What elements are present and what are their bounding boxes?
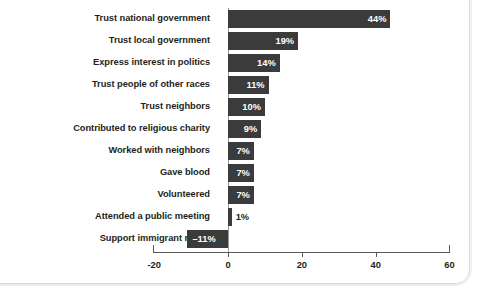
bar-value-label: 10% xyxy=(228,98,265,116)
bar-value-label: 7% xyxy=(228,142,254,160)
x-axis-right-cap xyxy=(449,245,450,252)
bar-value-label: 7% xyxy=(228,164,254,182)
bar-value-label: 9% xyxy=(228,120,261,138)
x-axis-tick-label: 0 xyxy=(208,260,248,270)
x-axis-tick-label: -20 xyxy=(134,260,174,270)
x-axis-left-cap xyxy=(153,245,154,252)
bar-value-label: 14% xyxy=(228,54,280,72)
bar-value-label: 11% xyxy=(228,76,269,94)
bar-value-label: –11% xyxy=(187,230,228,248)
bar xyxy=(228,208,232,226)
x-axis-tick-label: 60 xyxy=(430,260,470,270)
x-axis-tick-label: 40 xyxy=(356,260,396,270)
bar-value-label: 1% xyxy=(236,208,249,226)
chart-page: Trust national governmentTrust local gov… xyxy=(0,0,477,291)
x-axis-tick xyxy=(302,252,303,257)
bar-value-label: 19% xyxy=(228,32,298,50)
bar-series: 44%19%14%11%10%9%7%7%7%1%–11% xyxy=(0,0,477,252)
x-axis-tick xyxy=(228,252,229,257)
bar-chart: Trust national governmentTrust local gov… xyxy=(0,0,477,291)
x-axis-tick xyxy=(376,252,377,257)
x-axis-tick-label: 20 xyxy=(282,260,322,270)
bar-value-label: 44% xyxy=(228,10,390,28)
bar-value-label: 7% xyxy=(228,186,254,204)
